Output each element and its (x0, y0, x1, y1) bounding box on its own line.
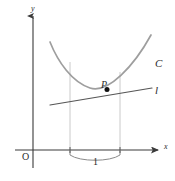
curve-label: C (155, 58, 162, 69)
interval-width-label: 1 (93, 157, 98, 167)
tangent-line-l (50, 88, 152, 105)
point-p-label: P (101, 80, 107, 90)
origin-label: O (22, 152, 29, 162)
y-axis-label: y (31, 5, 35, 13)
x-axis-label: x (164, 143, 168, 151)
tangent-line-label: l (155, 85, 158, 96)
math-figure: y x C l P O 1 (0, 0, 175, 181)
